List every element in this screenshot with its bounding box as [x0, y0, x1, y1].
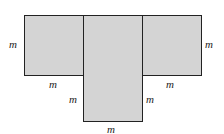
center-rectangle — [83, 15, 143, 122]
label-left-side: m — [9, 39, 17, 50]
label-right-bottom: m — [166, 79, 174, 90]
right-square — [142, 15, 202, 76]
label-right-side: m — [205, 39, 213, 50]
label-left-bottom: m — [49, 79, 57, 90]
label-center-bottom: m — [107, 124, 115, 134]
label-center-right: m — [146, 94, 154, 105]
left-square — [24, 15, 84, 76]
label-center-left: m — [69, 94, 77, 105]
